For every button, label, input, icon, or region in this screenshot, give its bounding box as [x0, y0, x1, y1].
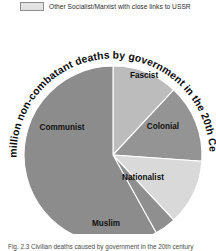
pie-slice-label-communist: Communist: [39, 123, 84, 132]
legend-swatch-other-socialist: [20, 2, 44, 11]
pie-slice-group: [24, 66, 202, 234]
legend-label-other-socialist: Other Socialist/Marxist with close links…: [49, 2, 191, 11]
chart-stage: 275 million non-combatant deaths by gove…: [0, 22, 216, 234]
legend-item-other-socialist: Other Socialist/Marxist with close links…: [0, 1, 216, 12]
pie-slice-label-colonial: Colonial: [147, 122, 179, 131]
chart-legend: Islamic state Other Socialist/Marxist wi…: [0, 0, 216, 13]
pie-slice-label-nationalist: Nationalist: [122, 173, 164, 182]
pie-slice-label-muslim: Muslim: [92, 219, 120, 228]
figure-caption-text: Fig. 2.3 Civilian deaths caused by gover…: [8, 243, 193, 250]
pie-slice-label-fascist: Fascist: [130, 71, 158, 80]
figure-caption: Fig. 2.3 Civilian deaths caused by gover…: [8, 243, 216, 251]
pie-chart-svg: 275 million non-combatant deaths by gove…: [0, 22, 216, 234]
